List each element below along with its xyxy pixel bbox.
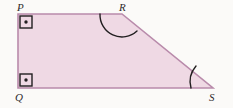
vertex-label-p: P xyxy=(17,2,24,13)
vertex-label-q: Q xyxy=(15,92,23,103)
figure-canvas xyxy=(0,0,233,108)
trapezoid-shape xyxy=(18,14,213,88)
geometry-figure: P R S Q xyxy=(0,0,233,108)
vertex-label-s: S xyxy=(209,92,215,103)
vertex-label-r: R xyxy=(119,2,126,13)
